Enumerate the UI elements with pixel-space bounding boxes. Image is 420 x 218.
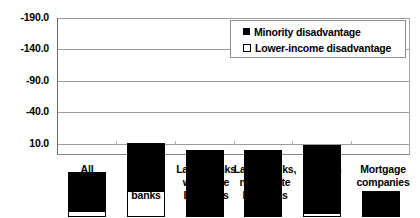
x-axis-category-large-banks-no-in-state-branches: Large banks, no in-state branches [229, 163, 301, 202]
x-axis-category-line: no in-state [229, 176, 301, 189]
x-axis-tick [292, 141, 293, 145]
bar-segment-lower-income [362, 215, 400, 218]
legend-item-minority: Minority disadvantage [243, 24, 405, 39]
bar-chart: -190.0 -140.0 -90.0 -40.0 10.0 [0, 0, 420, 217]
x-axis-tick [175, 141, 176, 145]
x-axis-tick [116, 141, 117, 145]
x-axis-category-line: companies [350, 176, 416, 189]
x-axis-category-savings-and-loans: Savings and loans [292, 163, 352, 202]
x-axis-category-line: Small [116, 163, 176, 176]
y-axis-tick-label: -90.0 [0, 75, 49, 86]
y-axis-tick-label: -140.0 [0, 43, 49, 54]
x-axis-category-mortgage-companies: Mortgage companies [350, 163, 416, 189]
y-axis-tick-label: 10.0 [0, 138, 49, 149]
legend-label: Minority disadvantage [254, 26, 361, 38]
legend-swatch-filled-icon [243, 28, 250, 35]
x-axis-category-small-in-state-banks: Small in-state banks [116, 163, 176, 202]
x-axis-tick [351, 141, 352, 145]
bar-mortgage-companies [362, 73, 400, 217]
x-axis-category-line: Large banks, [229, 163, 301, 176]
x-axis-tick [234, 141, 235, 145]
legend-item-lower-income: Lower-income disadvantage [243, 40, 405, 55]
bar-segment-minority [362, 191, 400, 214]
bar-all-lenders [68, 73, 106, 217]
x-axis-category-line: All [57, 163, 117, 176]
bar-segment-lower-income [68, 211, 106, 217]
y-axis-tick-label: -190.0 [0, 12, 49, 23]
bar-segment-lower-income [303, 213, 341, 217]
y-axis-tick-label: -40.0 [0, 106, 49, 117]
legend-swatch-hollow-icon [243, 44, 251, 52]
x-axis-category-line: and [292, 176, 352, 189]
x-axis-category-line: in-state [116, 176, 176, 189]
x-axis-category-line: banks [116, 189, 176, 202]
legend: Minority disadvantage Lower-income disad… [230, 20, 406, 58]
x-axis-category-line: loans [292, 189, 352, 202]
legend-label: Lower-income disadvantage [255, 42, 391, 54]
x-axis-category-line: branches [229, 189, 301, 202]
x-axis-category-line: Mortgage [350, 163, 416, 176]
x-axis-category-all-lenders: All lenders [57, 163, 117, 189]
x-axis-category-line: Savings [292, 163, 352, 176]
x-axis-category-line: lenders [57, 176, 117, 189]
